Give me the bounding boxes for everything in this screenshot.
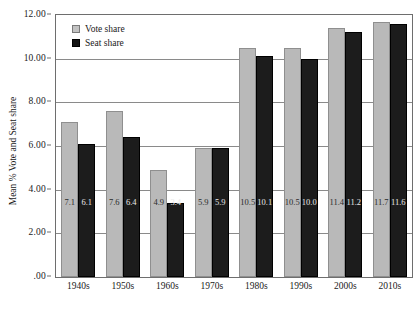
bar-value-label: 10.1 bbox=[257, 198, 272, 207]
seat-share-bar: 6.4 bbox=[123, 137, 140, 277]
chart-legend: Vote shareSeat share bbox=[72, 24, 125, 48]
seat-share-bar: 10.0 bbox=[301, 59, 318, 277]
bar-value-label: 11.4 bbox=[329, 198, 344, 207]
legend-label: Seat share bbox=[85, 38, 124, 48]
y-axis-tick-mark bbox=[47, 232, 51, 233]
x-axis-tick-label: 1940s bbox=[56, 281, 101, 291]
y-axis-tick-label: 12.00 bbox=[24, 9, 46, 19]
legend-item: Vote share bbox=[72, 24, 125, 34]
seat-share-bar: 6.1 bbox=[78, 144, 95, 277]
bar-value-label: 10.0 bbox=[302, 198, 317, 207]
vote-share-bar: 4.9 bbox=[150, 170, 167, 277]
bar-value-label: 10.5 bbox=[285, 198, 300, 207]
bar-group: 4.93.4 bbox=[145, 15, 190, 277]
bar-value-label: 6.4 bbox=[126, 198, 137, 207]
x-axis-tick-label: 1970s bbox=[190, 281, 235, 291]
bar-value-label: 6.1 bbox=[81, 198, 92, 207]
y-axis-tick-mark bbox=[47, 145, 51, 146]
bar-group: 7.16.1 bbox=[56, 15, 101, 277]
vote-share-bar: 7.1 bbox=[61, 122, 78, 277]
y-axis-labels: 12.0010.008.006.004.002.00.00 bbox=[0, 14, 51, 278]
vote-share-bar: 11.7 bbox=[373, 22, 390, 277]
x-axis-tick-label: 1960s bbox=[145, 281, 190, 291]
x-axis-tick-label: 1990s bbox=[279, 281, 324, 291]
y-axis-tick-mark bbox=[47, 276, 51, 277]
y-axis-tick-label: 8.00 bbox=[29, 96, 46, 106]
bar-value-label: 5.9 bbox=[215, 198, 226, 207]
vote-share-bar: 11.4 bbox=[328, 28, 345, 277]
x-axis-tick-label: 2000s bbox=[323, 281, 368, 291]
bar-group: 10.510.0 bbox=[279, 15, 324, 277]
bar-value-label: 4.9 bbox=[153, 198, 164, 207]
y-axis-tick-label: 4.00 bbox=[29, 184, 46, 194]
bar-group: 11.711.6 bbox=[368, 15, 413, 277]
legend-item: Seat share bbox=[72, 38, 125, 48]
x-axis-tick-label: 1950s bbox=[101, 281, 146, 291]
bar-value-label: 7.6 bbox=[109, 198, 120, 207]
bar-chart: Mean % Vote and Seat share 12.0010.008.0… bbox=[0, 0, 420, 318]
vote-share-bar: 10.5 bbox=[284, 48, 301, 277]
bar-groups: 7.16.17.66.44.93.45.95.910.510.110.510.0… bbox=[56, 15, 412, 277]
x-axis-tick-label: 2010s bbox=[368, 281, 413, 291]
light-gray-swatch bbox=[72, 25, 80, 33]
bar-group: 10.510.1 bbox=[234, 15, 279, 277]
bar-value-label: 5.9 bbox=[198, 198, 209, 207]
seat-share-bar: 5.9 bbox=[212, 148, 229, 277]
vote-share-bar: 10.5 bbox=[239, 48, 256, 277]
seat-share-bar: 11.2 bbox=[345, 32, 362, 277]
y-axis-tick-label: 10.00 bbox=[24, 53, 46, 63]
vote-share-bar: 5.9 bbox=[195, 148, 212, 277]
y-axis-tick-mark bbox=[47, 101, 51, 102]
bar-group: 11.411.2 bbox=[323, 15, 368, 277]
bar-value-label: 11.2 bbox=[346, 198, 361, 207]
bar-value-label: 11.7 bbox=[374, 198, 389, 207]
seat-share-bar: 10.1 bbox=[256, 56, 273, 277]
bar-value-label: 10.5 bbox=[240, 198, 255, 207]
y-axis-tick-mark bbox=[47, 188, 51, 189]
bar-group: 5.95.9 bbox=[190, 15, 235, 277]
black-swatch bbox=[72, 39, 80, 47]
bar-group: 7.66.4 bbox=[101, 15, 146, 277]
x-axis-tick-label: 1980s bbox=[234, 281, 279, 291]
seat-share-bar: 3.4 bbox=[167, 203, 184, 277]
y-axis-tick-mark bbox=[47, 14, 51, 15]
legend-label: Vote share bbox=[85, 24, 125, 34]
x-axis-labels: 1940s1950s1960s1970s1980s1990s2000s2010s bbox=[56, 281, 412, 291]
y-axis-tick-label: 2.00 bbox=[29, 227, 46, 237]
seat-share-bar: 11.6 bbox=[390, 24, 407, 277]
y-axis-tick-label: .00 bbox=[34, 271, 46, 281]
y-axis-tick-label: 6.00 bbox=[29, 140, 46, 150]
vote-share-bar: 7.6 bbox=[106, 111, 123, 277]
bar-value-label: 3.4 bbox=[170, 198, 181, 207]
y-axis-tick-mark bbox=[47, 57, 51, 58]
bar-value-label: 7.1 bbox=[64, 198, 75, 207]
bar-value-label: 11.6 bbox=[391, 198, 406, 207]
